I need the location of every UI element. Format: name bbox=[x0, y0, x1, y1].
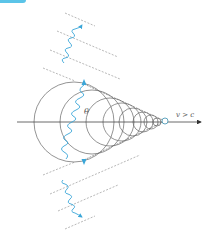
arrow-down-icon bbox=[82, 159, 87, 165]
velocity-label: v > c bbox=[176, 111, 194, 119]
wavefront-line bbox=[65, 13, 95, 26]
lower-wavefronts bbox=[43, 155, 140, 229]
wavefront-line bbox=[50, 50, 120, 79]
wavy-photon-icon bbox=[62, 180, 82, 217]
arrow-up-icon bbox=[82, 79, 87, 85]
particle-circle-icon bbox=[162, 118, 168, 124]
angle-label: θ bbox=[84, 107, 89, 116]
wavefront-line bbox=[43, 162, 75, 175]
wavefront-line bbox=[65, 216, 95, 229]
wavy-photon-icon bbox=[62, 25, 82, 63]
wavefront-line bbox=[57, 31, 118, 57]
upper-wavefronts bbox=[43, 13, 120, 81]
wavefront-line bbox=[43, 68, 75, 81]
cherenkov-diagram: θ v > c bbox=[0, 0, 209, 237]
